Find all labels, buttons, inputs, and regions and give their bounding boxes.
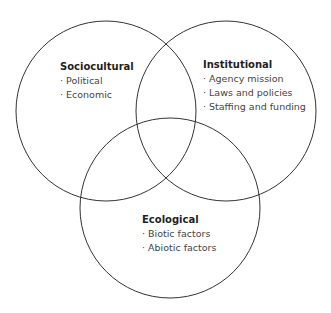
sociocultural-label: Sociocultural · Political · Economic: [60, 60, 134, 102]
institutional-title: Institutional: [203, 58, 306, 72]
sociocultural-item: · Political: [60, 74, 134, 88]
sociocultural-item: · Economic: [60, 88, 134, 102]
sociocultural-circle: [16, 21, 196, 201]
ecological-label: Ecological · Biotic factors · Abiotic fa…: [142, 213, 216, 255]
ecological-item: · Abiotic factors: [142, 241, 216, 255]
institutional-label: Institutional · Agency mission · Laws an…: [203, 58, 306, 114]
sociocultural-title: Sociocultural: [60, 60, 134, 74]
ecological-circle: [80, 118, 260, 298]
institutional-item: · Staffing and funding: [203, 100, 306, 114]
institutional-item: · Agency mission: [203, 72, 306, 86]
ecological-title: Ecological: [142, 213, 216, 227]
venn-diagram: [0, 0, 331, 313]
ecological-item: · Biotic factors: [142, 227, 216, 241]
institutional-item: · Laws and policies: [203, 86, 306, 100]
